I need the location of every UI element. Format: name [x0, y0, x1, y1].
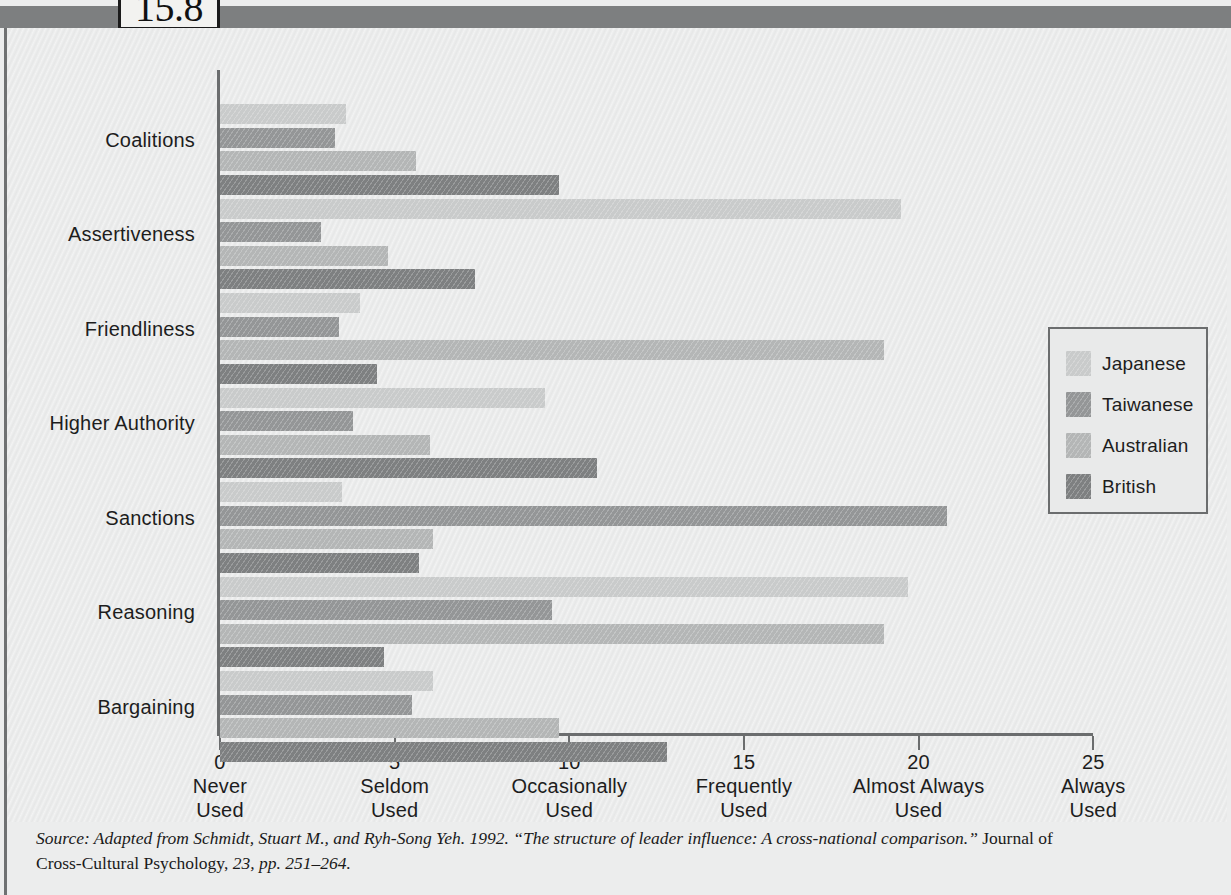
bar-japanese-reasoning [220, 577, 908, 597]
bar-taiwanese-higher-authority [220, 411, 353, 431]
bar-british-bargaining [220, 742, 667, 762]
bar-australian-bargaining [220, 718, 559, 738]
bar-japanese-coalitions [220, 104, 346, 124]
bar-british-sanctions [220, 553, 419, 573]
bar-british-friendliness [220, 364, 377, 384]
figure-page: 15.8 0NeverUsed5SeldomUsed10Occasionally… [0, 0, 1231, 895]
x-tick-word-2: Used [310, 798, 480, 822]
bar-taiwanese-coalitions [220, 128, 335, 148]
bar-taiwanese-assertiveness [220, 222, 321, 242]
bar-japanese-assertiveness [220, 199, 901, 219]
bar-australian-sanctions [220, 529, 433, 549]
x-tick-word-1: Almost Always [834, 774, 1004, 798]
category-label-coalitions: Coalitions [105, 129, 195, 152]
x-tick-value: 20 [834, 750, 1004, 774]
x-tick-word-2: Used [484, 798, 654, 822]
bar-british-higher-authority [220, 458, 597, 478]
source-line-2: Cross-Cultural Psychology, 23, pp. 251–2… [36, 851, 1214, 876]
legend-item-australian[interactable]: Australian [1066, 425, 1206, 466]
legend-label: British [1102, 476, 1156, 498]
category-label-friendliness: Friendliness [85, 318, 195, 341]
figure-number-tab: 15.8 [118, 0, 220, 30]
bar-british-coalitions [220, 175, 559, 195]
bar-british-assertiveness [220, 269, 475, 289]
x-tick-20 [918, 736, 920, 750]
bar-chart: 0NeverUsed5SeldomUsed10OccasionallyUsed1… [7, 28, 1230, 822]
bar-taiwanese-friendliness [220, 317, 339, 337]
legend-swatch-taiwanese [1066, 392, 1091, 417]
source-line1-a: Source: Adapted from Schmidt, Stuart M.,… [36, 828, 513, 848]
source-note: Source: Adapted from Schmidt, Stuart M.,… [4, 826, 1214, 876]
x-tick-word-1: Seldom [310, 774, 480, 798]
legend-swatch-japanese [1066, 351, 1091, 376]
source-line2-b: 23, pp. 251–264. [233, 853, 351, 873]
category-label-bargaining: Bargaining [97, 696, 195, 719]
bar-japanese-sanctions [220, 482, 342, 502]
bar-japanese-bargaining [220, 671, 433, 691]
x-tick-word-1: Occasionally [484, 774, 654, 798]
x-tick-25 [1092, 736, 1094, 750]
source-line2-a: Cross-Cultural Psychology, [36, 853, 233, 873]
legend-item-british[interactable]: British [1066, 466, 1206, 507]
legend-item-taiwanese[interactable]: Taiwanese [1066, 384, 1206, 425]
chart-legend: JapaneseTaiwaneseAustralianBritish [1048, 327, 1208, 514]
legend-swatch-australian [1066, 433, 1091, 458]
source-line-1: Source: Adapted from Schmidt, Stuart M.,… [36, 826, 1214, 851]
figure-number: 15.8 [135, 0, 203, 27]
source-line1-c: Journal of [978, 828, 1053, 848]
x-tick-value: 15 [659, 750, 829, 774]
x-tick-word-1: Frequently [659, 774, 829, 798]
x-tick-word-2: Used [834, 798, 1004, 822]
category-label-reasoning: Reasoning [98, 601, 195, 624]
x-tick-word-2: Used [659, 798, 829, 822]
bar-australian-coalitions [220, 151, 416, 171]
bar-taiwanese-bargaining [220, 695, 412, 715]
category-label-sanctions: Sanctions [105, 507, 195, 530]
bar-japanese-friendliness [220, 293, 360, 313]
figure-plate: 0NeverUsed5SeldomUsed10OccasionallyUsed1… [4, 28, 1227, 822]
bar-british-reasoning [220, 647, 384, 667]
x-tick-value: 25 [1008, 750, 1178, 774]
x-tick-label-20: 20Almost AlwaysUsed [834, 750, 1004, 822]
x-tick-word-2: Used [135, 798, 305, 822]
x-tick-word-2: Used [1008, 798, 1178, 822]
x-tick-label-25: 25AlwaysUsed [1008, 750, 1178, 822]
legend-label: Australian [1102, 435, 1189, 457]
bar-australian-assertiveness [220, 246, 388, 266]
bar-australian-reasoning [220, 624, 884, 644]
bar-japanese-higher-authority [220, 388, 545, 408]
legend-item-japanese[interactable]: Japanese [1066, 343, 1206, 384]
legend-label: Taiwanese [1102, 394, 1194, 416]
category-label-assertiveness: Assertiveness [68, 223, 195, 246]
x-tick-word-1: Never [135, 774, 305, 798]
bar-australian-friendliness [220, 340, 884, 360]
x-tick-word-1: Always [1008, 774, 1178, 798]
bar-taiwanese-sanctions [220, 506, 947, 526]
x-tick-15 [743, 736, 745, 750]
bar-taiwanese-reasoning [220, 600, 552, 620]
x-tick-label-15: 15FrequentlyUsed [659, 750, 829, 822]
bar-australian-higher-authority [220, 435, 430, 455]
category-label-higher-authority: Higher Authority [50, 412, 196, 435]
source-line1-b: “The structure of leader influence: A cr… [513, 828, 978, 848]
legend-label: Japanese [1102, 353, 1186, 375]
legend-swatch-british [1066, 474, 1091, 499]
